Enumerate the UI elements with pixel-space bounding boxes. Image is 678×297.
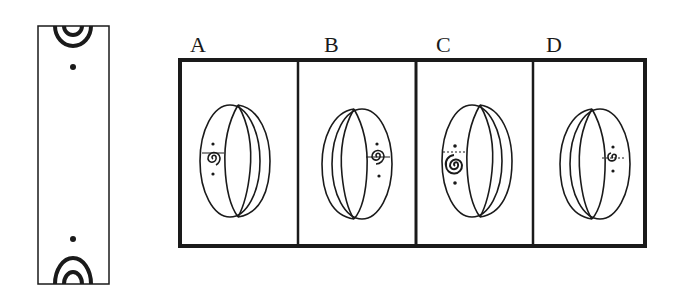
spiral-icon [446,155,462,174]
bottom-dot [70,236,76,242]
option-d-ring[interactable] [556,100,632,228]
option-c-ring[interactable] [440,96,516,226]
spiral-icon [608,153,616,161]
option-label-b: B [324,34,339,56]
bottom-inner-arc [64,272,82,284]
spiral-icon [208,152,220,165]
option-label-a: A [190,34,206,56]
top-dot [70,64,76,70]
top-inner-arc [64,26,82,35]
unfolded-strip [37,25,110,285]
option-a-ring[interactable] [198,96,274,226]
option-label-d: D [546,34,562,56]
option-b-ring[interactable] [318,100,394,228]
option-label-c: C [436,34,451,56]
